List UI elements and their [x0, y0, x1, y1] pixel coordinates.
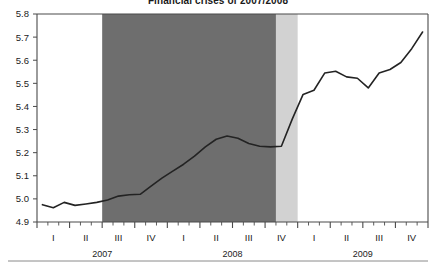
crisis-dark-band — [102, 14, 276, 222]
x-axis-quarter-label: III — [245, 232, 253, 243]
y-axis-tick-label: 5.1 — [16, 170, 29, 181]
x-axis-quarter-label: II — [83, 232, 88, 243]
x-axis-year-label: 2009 — [353, 249, 373, 259]
shaded-bands — [102, 14, 297, 222]
x-axis-quarter-label: III — [375, 232, 383, 243]
x-axis-quarter-labels: IIIIIIIVIIIIIIIVIIIIIIIV — [52, 232, 417, 243]
x-axis-quarter-label: IV — [407, 232, 417, 243]
y-axis-ticks — [33, 14, 37, 222]
y-axis-tick-label: 5.0 — [16, 193, 29, 204]
x-axis-year-labels: 200720082009 — [92, 249, 373, 259]
y-axis-labels: 4.95.05.15.25.35.45.55.65.75.8 — [16, 8, 29, 227]
y-axis-tick-label: 5.7 — [16, 32, 29, 43]
crisis-light-band — [276, 14, 298, 222]
y-axis-tick-label: 4.9 — [16, 216, 29, 227]
x-axis-quarter-label: I — [182, 232, 185, 243]
y-axis-tick-label: 5.2 — [16, 147, 29, 158]
y-axis-tick-label: 5.4 — [16, 101, 29, 112]
y-axis-tick-label: 5.5 — [16, 78, 29, 89]
x-axis-quarter-label: II — [344, 232, 349, 243]
x-axis-quarter-label: IV — [277, 232, 287, 243]
x-axis-quarter-label: III — [114, 232, 122, 243]
y-axis-tick-label: 5.3 — [16, 124, 29, 135]
y-axis-tick-label: 5.8 — [16, 8, 29, 19]
x-axis-quarter-label: I — [313, 232, 316, 243]
x-axis-quarter-label: I — [52, 232, 55, 243]
y-axis-tick-label: 5.6 — [16, 55, 29, 66]
x-axis-year-label: 2007 — [92, 249, 112, 259]
x-axis-quarter-label: II — [214, 232, 219, 243]
x-axis-year-label: 2008 — [222, 249, 242, 259]
chart-plot-area: 4.95.05.15.25.35.45.55.65.75.8 IIIIIIIVI… — [0, 0, 436, 267]
x-axis-quarter-label: IV — [147, 232, 157, 243]
chart-container: Financial crises of 2007/2008 4.95.05.15… — [0, 0, 436, 267]
x-axis-ticks — [37, 222, 428, 228]
